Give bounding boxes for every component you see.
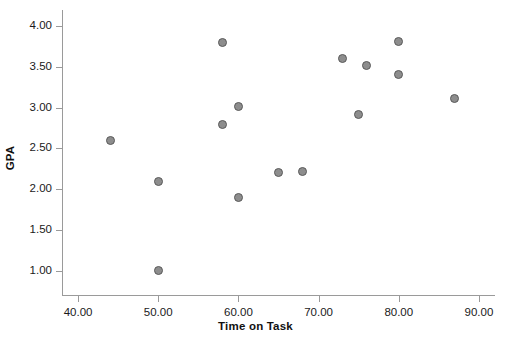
y-tick-label-text: 1.50	[0, 224, 52, 236]
x-tick-label-text: 60.00	[203, 306, 273, 319]
data-point	[338, 54, 347, 63]
x-tick-mark	[319, 296, 320, 302]
data-point	[274, 168, 283, 177]
x-tick-label-text: 80.00	[364, 306, 434, 319]
x-tick-mark	[158, 296, 159, 302]
x-tick-label: 60.00	[203, 306, 273, 320]
y-tick-label: 4.00	[0, 20, 52, 32]
data-point	[234, 193, 243, 202]
data-point	[154, 177, 163, 186]
x-tick-label-text: 70.00	[284, 306, 354, 319]
data-point	[106, 136, 115, 145]
x-tick-label: 50.00	[123, 306, 193, 320]
x-axis-line	[62, 295, 495, 296]
scatter-plot: 1.001.502.002.503.003.504.00 40.0050.006…	[0, 0, 511, 341]
x-tick-label-text: 50.00	[123, 306, 193, 319]
x-tick-label: 70.00	[284, 306, 354, 320]
y-axis-title: GPA	[0, 130, 20, 190]
x-tick-mark	[479, 296, 480, 302]
y-tick-label-text: 3.50	[0, 61, 52, 73]
x-tick-label: 40.00	[43, 306, 113, 320]
x-axis-title: Time on Task	[0, 320, 511, 332]
x-tick-label: 90.00	[444, 306, 511, 320]
x-tick-mark	[399, 296, 400, 302]
x-tick-label-text: 40.00	[43, 306, 113, 319]
data-point	[354, 110, 363, 119]
y-tick-label: 3.00	[0, 102, 52, 114]
y-axis-title-text: GPA	[4, 136, 16, 180]
y-tick-label-text: 4.00	[0, 20, 52, 32]
x-tick-label-text: 90.00	[444, 306, 511, 319]
y-tick-label: 1.50	[0, 224, 52, 236]
plot-data-area	[62, 10, 495, 295]
x-tick-mark	[78, 296, 79, 302]
y-tick-label: 3.50	[0, 61, 52, 73]
x-tick-label: 80.00	[364, 306, 434, 320]
y-tick-label-text: 3.00	[0, 102, 52, 114]
data-point	[154, 266, 163, 275]
y-tick-label-text: 1.00	[0, 265, 52, 277]
x-tick-mark	[238, 296, 239, 302]
data-point	[362, 61, 371, 70]
data-point	[218, 38, 227, 47]
data-point	[218, 120, 227, 129]
y-tick-label: 1.00	[0, 265, 52, 277]
data-point	[298, 167, 307, 176]
